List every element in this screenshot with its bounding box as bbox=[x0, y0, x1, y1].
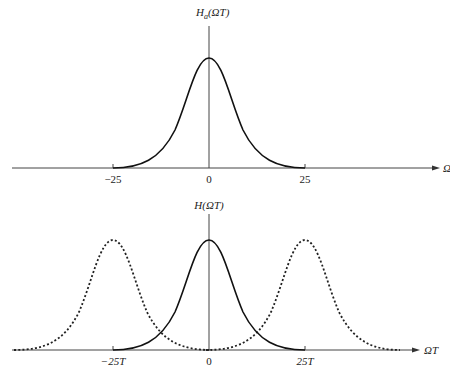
bottom-y-label: H(ΩT) bbox=[193, 199, 224, 212]
bottom-plot: H(ΩT) ΩT −25T 0 25T bbox=[12, 199, 439, 367]
top-x-label: Ω bbox=[443, 162, 450, 174]
bottom-x-label: ΩT bbox=[424, 344, 439, 356]
bottom-x-axis-arrow-icon bbox=[412, 348, 420, 353]
bottom-tick-label-center: 0 bbox=[206, 355, 212, 367]
top-tick-label-right: 25 bbox=[300, 173, 312, 185]
top-x-axis-arrow-icon bbox=[432, 166, 440, 171]
bottom-alias-right-curve bbox=[206, 240, 400, 350]
top-tick-label-center: 0 bbox=[206, 173, 212, 185]
bottom-tick-label-right: 25T bbox=[296, 355, 314, 367]
top-y-label: Ha(ΩT) bbox=[195, 6, 230, 21]
bottom-tick-label-left: −25T bbox=[101, 355, 126, 367]
figure: Ha(ΩT) Ω −25 0 25 H(ΩT) ΩT −25T 0 25T bbox=[0, 0, 450, 374]
top-tick-label-left: −25 bbox=[104, 173, 122, 185]
top-plot: Ha(ΩT) Ω −25 0 25 bbox=[12, 6, 450, 185]
